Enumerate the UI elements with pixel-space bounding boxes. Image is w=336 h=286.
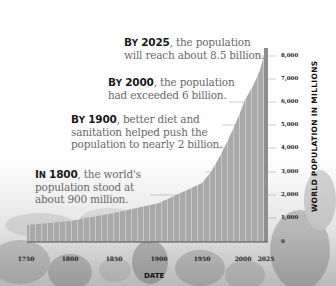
y-tick-8000: 8,000 xyxy=(281,52,298,58)
x-axis-label: DATE xyxy=(144,272,164,280)
x-tick-1900: 1900 xyxy=(151,255,168,262)
y-tick-6000: 6,000 xyxy=(281,98,298,104)
x-tick-1950: 1950 xyxy=(194,255,211,262)
x-tick-2025: 2025 xyxy=(258,255,275,262)
annotation-1900: BY 1900, better diet and sanitation help… xyxy=(71,113,222,150)
y-tick-1000: 1,000 xyxy=(281,214,298,220)
y-tick-5000: 5,000 xyxy=(281,121,298,127)
annotation-1900-lead: BY 1900 xyxy=(71,113,117,125)
x-tick-1800: 1800 xyxy=(62,255,79,262)
annotation-1800-lead: IN 1800 xyxy=(35,168,78,180)
y-tick-3000: 3,000 xyxy=(281,168,298,174)
y-axis-label: WORLD POPULATION IN MILLIONS xyxy=(310,61,319,212)
annotation-2025: BY 2025, the population will reach about… xyxy=(124,36,264,61)
x-tick-1750: 1750 xyxy=(18,255,35,262)
x-tick-1850: 1850 xyxy=(106,255,123,262)
annotation-2025-lead: BY 2025 xyxy=(124,36,170,48)
area-right-band xyxy=(264,48,268,242)
annotation-2000: BY 2000, the population had exceeded 6 b… xyxy=(108,76,235,101)
y-tick-4000: 4,000 xyxy=(281,144,298,150)
annotation-2000-lead: BY 2000 xyxy=(108,76,154,88)
y-tick-2000: 2,000 xyxy=(281,191,298,197)
x-tick-2000: 2000 xyxy=(235,255,252,262)
annotation-1800: IN 1800, the world's population stood at… xyxy=(35,168,141,205)
y-tick-0: 0 xyxy=(281,238,285,244)
y-tick-7000: 7,000 xyxy=(281,75,298,81)
